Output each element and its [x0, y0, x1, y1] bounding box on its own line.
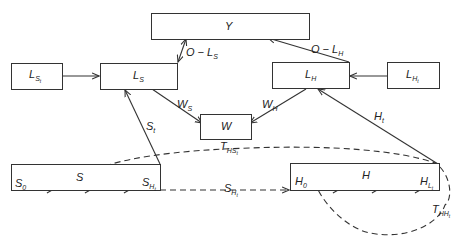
label-lst: LSt [29, 69, 41, 84]
edge-label-o-ls: O − LS [186, 47, 218, 60]
edge-label-wh: WH [262, 99, 277, 112]
arrow-lh-to-w [250, 89, 306, 123]
label-y: Y [225, 21, 232, 32]
edge-label-st: St [146, 121, 155, 134]
label-h0: H0 [295, 176, 307, 189]
arrow-ls-y [178, 39, 186, 62]
edge-label-o-lh: O − LH [311, 44, 343, 57]
label-lh: LH [305, 69, 316, 82]
label-s: S [76, 172, 83, 183]
label-lht: LHt [406, 69, 419, 84]
edge-label-ths: THSt [220, 141, 238, 156]
edge-label-sh: SHt [224, 183, 238, 198]
edge-label-thh: THHt [432, 204, 450, 219]
arrow-hlt-to-lh [318, 89, 438, 164]
node-s-stock [11, 164, 161, 191]
label-h: H [362, 170, 370, 181]
edge-label-ht: Ht [374, 111, 384, 124]
edge-label-ws: WS [177, 99, 192, 112]
label-ls: LS [133, 70, 144, 83]
label-w: W [221, 121, 231, 132]
label-s0: S0 [15, 178, 26, 191]
label-sht: SHt [142, 177, 156, 192]
label-hlt: HLt [420, 176, 433, 191]
